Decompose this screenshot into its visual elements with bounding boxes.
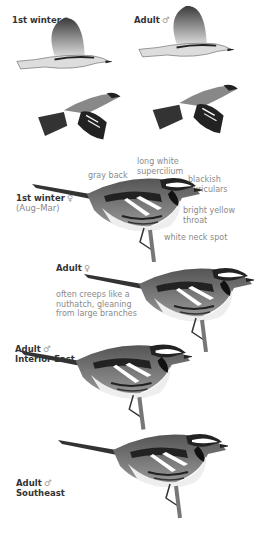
bird-perched-adult-male-interior <box>20 338 192 430</box>
bird-flight-up-adult-male <box>138 6 234 72</box>
male-symbol-icon: ♂ <box>44 478 52 488</box>
bird-flight-up-first-winter <box>16 18 112 84</box>
label-text: Adult <box>16 478 42 488</box>
bird-perched-first-winter <box>32 172 202 262</box>
bird-flight-down-first-winter <box>36 88 126 148</box>
bird-perched-adult-male-southeast <box>58 418 228 528</box>
adult-male-southeast-label: Adult♂ <box>16 478 51 488</box>
label-text: Adult <box>56 263 82 273</box>
bird-flight-down-adult-male <box>150 80 244 142</box>
